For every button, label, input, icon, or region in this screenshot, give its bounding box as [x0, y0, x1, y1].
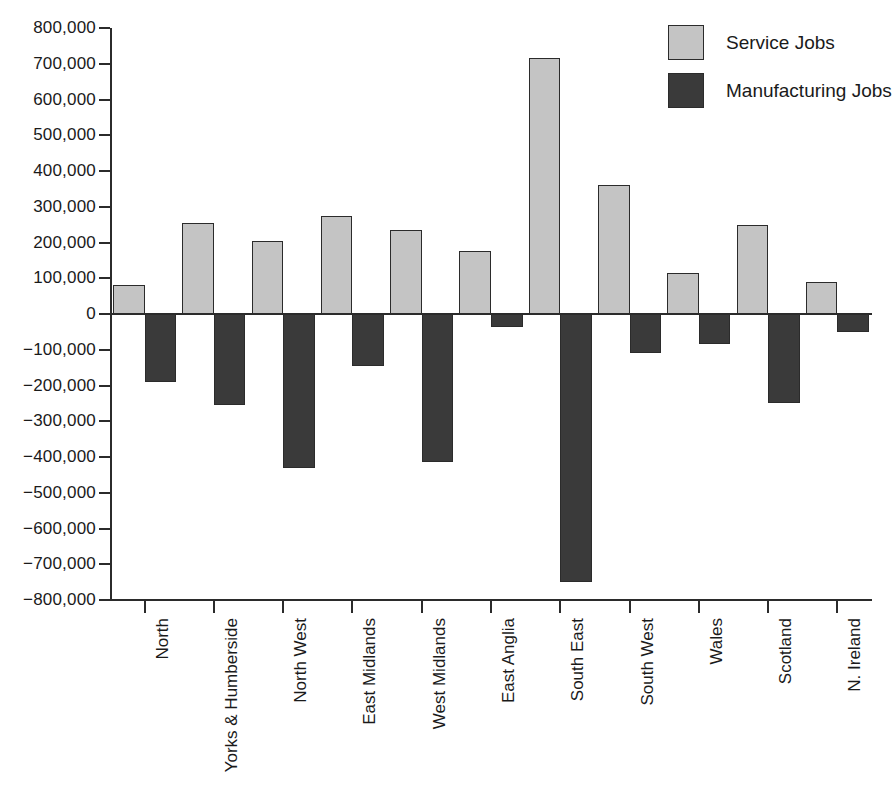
y-axis-tick-label-text: 700,000: [4, 55, 96, 72]
y-axis-tick-label: −300,000: [0, 412, 96, 429]
bar-manufacturing: [145, 314, 177, 382]
x-axis-tick-label-text: Yorks & Humberside: [223, 618, 241, 772]
bar-service: [529, 58, 561, 314]
legend-label-manufacturing: Manufacturing Jobs: [726, 81, 892, 100]
x-axis-tick-label-text: Scotland: [777, 618, 795, 684]
bar-service: [252, 241, 284, 314]
y-axis-tick-label: 300,000: [0, 198, 96, 215]
y-axis-tick-label: −700,000: [0, 555, 96, 572]
y-axis-tick: [99, 563, 110, 565]
y-axis-tick: [99, 420, 110, 422]
y-axis-tick-label: −400,000: [0, 448, 96, 465]
x-axis-tick-label-text: Wales: [708, 618, 726, 665]
legend-item-service: Service Jobs: [668, 22, 892, 62]
bar-service: [667, 273, 699, 314]
x-axis-tick-label: Scotland: [777, 618, 778, 619]
y-axis-tick-label-text: 500,000: [4, 126, 96, 143]
x-axis-tick: [698, 601, 700, 613]
bar-manufacturing: [352, 314, 384, 366]
y-axis-tick-label: 700,000: [0, 55, 96, 72]
y-axis-tick: [99, 456, 110, 458]
bar-service: [598, 185, 630, 314]
x-axis-tick: [767, 601, 769, 613]
y-axis-tick-label: 200,000: [0, 234, 96, 251]
bar-service: [459, 251, 491, 314]
y-axis-tick-label: 600,000: [0, 91, 96, 108]
x-axis-tick-label: N. Ireland: [846, 618, 847, 619]
x-axis-tick-label: South West: [639, 618, 640, 619]
y-axis-tick-label: −100,000: [0, 341, 96, 358]
x-axis-tick-label: South East: [569, 618, 570, 619]
y-axis-tick: [99, 170, 110, 172]
y-axis-tick-label-text: −700,000: [4, 555, 96, 572]
x-axis-tick-label-text: South East: [569, 618, 587, 701]
y-axis-tick: [99, 277, 110, 279]
y-axis-tick-label: −500,000: [0, 484, 96, 501]
x-axis-tick: [836, 601, 838, 613]
x-axis-tick: [351, 601, 353, 613]
x-axis-tick-label: Wales: [708, 618, 709, 619]
x-axis-tick-label: North: [154, 618, 155, 619]
bar-service: [113, 285, 145, 314]
y-axis-tick-label-text: 800,000: [4, 19, 96, 36]
y-axis-tick: [99, 206, 110, 208]
x-axis-tick-label-text: West Midlands: [431, 618, 449, 729]
legend-label-service: Service Jobs: [726, 33, 835, 52]
bar-manufacturing: [560, 314, 592, 582]
x-axis-tick-label-text: North West: [292, 618, 310, 703]
x-axis-tick-label: East Midlands: [361, 618, 362, 619]
legend-item-manufacturing: Manufacturing Jobs: [668, 70, 892, 110]
x-axis-tick: [559, 601, 561, 613]
bar-service: [806, 282, 838, 314]
legend-swatch-service-icon: [668, 25, 704, 60]
y-axis-tick-label-text: −500,000: [4, 484, 96, 501]
x-axis-tick: [421, 601, 423, 613]
y-axis-tick: [99, 63, 110, 65]
x-axis-tick-label: West Midlands: [431, 618, 432, 619]
bar-manufacturing: [768, 314, 800, 403]
bar-manufacturing: [837, 314, 869, 332]
zero-baseline: [110, 313, 872, 315]
x-axis-tick-label-text: East Midlands: [361, 618, 379, 725]
y-axis-tick-label: 0: [0, 305, 96, 322]
x-axis-tick-label-text: N. Ireland: [846, 618, 864, 692]
y-axis-tick: [99, 599, 110, 601]
y-axis-tick-label-text: −200,000: [4, 377, 96, 394]
y-axis-tick-label-text: 400,000: [4, 162, 96, 179]
x-axis-tick-label: East Anglia: [500, 618, 501, 619]
x-axis-tick-label-text: East Anglia: [500, 618, 518, 703]
y-axis-tick: [99, 349, 110, 351]
y-axis-tick-label: −600,000: [0, 520, 96, 537]
y-axis-tick-label-text: 0: [4, 305, 96, 322]
x-axis-tick-label: Yorks & Humberside: [223, 618, 224, 619]
y-axis-tick-label-text: −100,000: [4, 341, 96, 358]
bar-chart: 800,000700,000600,000500,000400,000300,0…: [0, 0, 895, 806]
x-axis-tick: [144, 601, 146, 613]
y-axis-tick-label-text: 100,000: [4, 269, 96, 286]
bar-service: [321, 216, 353, 314]
y-axis-tick-label: 800,000: [0, 19, 96, 36]
y-axis-tick: [99, 385, 110, 387]
bar-manufacturing: [283, 314, 315, 468]
x-axis-tick: [282, 601, 284, 613]
bar-service: [737, 225, 769, 314]
bar-manufacturing: [422, 314, 454, 462]
legend: Service Jobs Manufacturing Jobs: [668, 22, 892, 118]
legend-swatch-manufacturing-icon: [668, 73, 704, 108]
x-axis-tick-label-text: North: [154, 618, 172, 660]
y-axis-tick: [99, 27, 110, 29]
x-axis-tick: [629, 601, 631, 613]
y-axis-tick: [99, 99, 110, 101]
y-axis-tick: [99, 242, 110, 244]
x-axis-tick: [490, 601, 492, 613]
y-axis-tick-label: −800,000: [0, 591, 96, 608]
y-axis-tick-label: 400,000: [0, 162, 96, 179]
bar-service: [390, 230, 422, 314]
x-axis-tick: [213, 601, 215, 613]
x-axis-tick-label: North West: [292, 618, 293, 619]
y-axis-tick-label-text: −400,000: [4, 448, 96, 465]
y-axis-tick-label-text: 600,000: [4, 91, 96, 108]
bar-manufacturing: [214, 314, 246, 405]
y-axis-tick: [99, 134, 110, 136]
y-axis-tick: [99, 492, 110, 494]
